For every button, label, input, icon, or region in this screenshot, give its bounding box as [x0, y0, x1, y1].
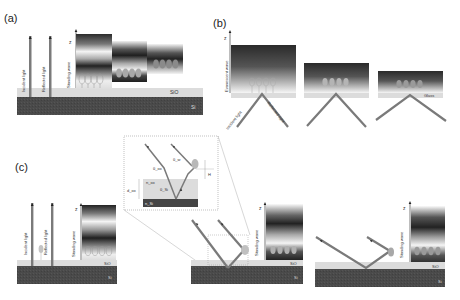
panel-c-label: (c)	[15, 161, 28, 173]
si-substrate	[191, 266, 303, 284]
arrow-up-icon	[264, 202, 267, 205]
zoom-connector	[218, 136, 250, 235]
cell	[388, 248, 394, 257]
evanescent-wave-block-3	[378, 71, 443, 93]
evanescent-wave-label: Evanescent wave	[224, 60, 229, 92]
beam-path-b1	[237, 94, 288, 127]
incident-light-label: Incident light	[23, 232, 28, 255]
glass-label: Glass	[424, 93, 434, 98]
incident-light-label: Incident light	[21, 69, 26, 92]
beam-path-b3	[376, 95, 446, 121]
si-substrate	[315, 269, 445, 287]
sio-label: SiO	[290, 261, 297, 266]
figure-canvas: (a) SiO Si Incident light Reflected ligh…	[0, 0, 460, 300]
reflected-light-label: Reflected light	[266, 101, 286, 125]
cell	[192, 159, 199, 169]
reflected-light-label: Reflected light	[43, 229, 48, 255]
beam-path-b2	[307, 94, 366, 127]
reflected-beam	[51, 203, 53, 266]
panel-a: (a) SiO Si Incident light Reflected ligh…	[4, 12, 203, 115]
z-axis-label: z	[75, 206, 78, 212]
si-label: Si	[294, 275, 298, 280]
sio-layer	[315, 262, 445, 269]
z-axis-label: z	[224, 35, 227, 41]
panel-a-label: (a)	[4, 12, 17, 24]
panel-c: (c) SiO Si Incident light Reflected ligh…	[15, 136, 445, 287]
evanescent-wave-block-1	[231, 45, 296, 93]
height-symbol: H	[208, 172, 211, 177]
arrow-up-icon	[229, 30, 232, 33]
sio-label: SiO	[170, 89, 178, 95]
arrow-up-icon	[80, 203, 83, 206]
cell	[241, 245, 249, 255]
z-axis-label: z	[69, 39, 72, 45]
cell	[39, 245, 44, 253]
reflected-light-label: Reflected light	[41, 66, 46, 92]
panel-b-label: (b)	[213, 17, 226, 29]
sio-label: SiO	[104, 261, 111, 266]
si-substrate	[17, 266, 117, 284]
z-axis-label: z	[259, 205, 262, 211]
si-label: Si	[438, 279, 442, 284]
si-substrate	[17, 97, 203, 115]
panel-b: (b) z Evanescent wave Incident light Ref…	[213, 17, 446, 131]
reflected-beam	[49, 36, 52, 97]
n-si-symbol: n_Si	[145, 201, 153, 206]
theta-ox-symbol: θ_ox	[153, 166, 162, 171]
incident-beam	[29, 36, 32, 97]
incident-beam	[31, 203, 33, 266]
arrow-up-icon	[409, 201, 412, 204]
standing-wave-label: Standing wave	[71, 230, 76, 257]
evanescent-wave-block-2	[304, 63, 369, 93]
sio-label: SiO	[432, 264, 439, 269]
arrow-up-icon	[75, 29, 78, 32]
z-axis-label: z	[403, 205, 406, 211]
standing-wave-label: Standing wave	[66, 61, 71, 88]
d-ox-symbol: d_ox	[127, 188, 136, 193]
si-label: Si	[108, 275, 112, 280]
incident-beam-2	[367, 237, 390, 251]
theta-w-symbol: θ_w	[173, 157, 180, 162]
n-ox-symbol: n_ox	[146, 180, 155, 185]
standing-wave-block-1	[76, 34, 112, 89]
standing-wave-label: Standing wave	[399, 231, 404, 258]
standing-wave-block-3	[147, 44, 183, 74]
standing-wave-label: Standing wave	[254, 229, 259, 256]
incident-light-label: Incident light	[225, 109, 243, 130]
si-label: Si	[191, 104, 195, 110]
theta-si-symbol: θ_Si	[160, 187, 168, 192]
zoom-connector	[124, 210, 202, 265]
